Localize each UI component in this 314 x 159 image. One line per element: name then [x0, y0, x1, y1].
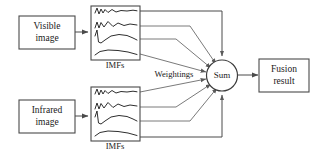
- wire-bottom-imf-1: [140, 79, 206, 92]
- node-visible-image[interactable]: Visible image: [19, 16, 75, 49]
- wire-bottom-imf-4: [140, 95, 222, 137]
- node-imfs-top[interactable]: IMFs: [91, 6, 140, 70]
- node-fusion-result[interactable]: Fusion result: [259, 59, 309, 92]
- fusion-block-diagram: Visible image Infrared image IMFs: [0, 0, 314, 159]
- wire-top-imf-2: [140, 26, 216, 64]
- wire-top-imf-1: [140, 11, 222, 56]
- diagram-canvas: Visible image Infrared image IMFs: [0, 0, 314, 159]
- node-infrared-image[interactable]: Infrared image: [19, 100, 75, 133]
- wires-top-imfs: [140, 11, 222, 72]
- weightings-label: Weightings: [155, 69, 195, 79]
- imfs-bottom-caption: IMFs: [106, 141, 125, 151]
- visible-image-label-line2: image: [35, 33, 58, 43]
- infrared-image-label-line1: Infrared: [32, 105, 63, 115]
- sum-label: Sum: [214, 70, 231, 80]
- infrared-image-label-line2: image: [35, 117, 58, 127]
- wire-bottom-imf-2: [140, 84, 211, 107]
- wire-bottom-imf-3: [140, 88, 217, 121]
- node-imfs-bottom[interactable]: IMFs: [91, 87, 140, 151]
- fusion-result-label-line2: result: [273, 76, 294, 86]
- visible-image-label-line1: Visible: [34, 21, 61, 31]
- fusion-result-label-line1: Fusion: [271, 64, 297, 74]
- imfs-top-caption: IMFs: [106, 60, 125, 70]
- wires-bottom-imfs: [140, 79, 222, 137]
- node-sum[interactable]: Sum: [207, 60, 238, 91]
